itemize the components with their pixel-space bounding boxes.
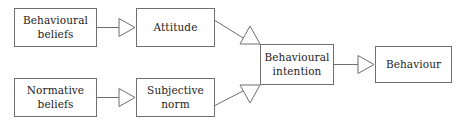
node-behavioural-intention-label: Behavioural intention: [264, 51, 329, 79]
edge-subjective-norm-to-behavioural-intention: [215, 85, 260, 106]
node-normative-beliefs-label: Normative beliefs: [27, 84, 84, 112]
arrowhead-icon: [119, 89, 135, 107]
edge-behavioural-beliefs-to-attitude: [97, 19, 135, 37]
diagram-canvas: Behavioural beliefs Attitude Normative b…: [0, 0, 466, 129]
node-subjective-norm-label: Subjective norm: [147, 84, 204, 112]
node-normative-beliefs[interactable]: Normative beliefs: [14, 78, 97, 117]
edge-normative-beliefs-to-subjective-norm: [97, 89, 135, 107]
node-behaviour-label: Behaviour: [386, 58, 441, 72]
node-behavioural-intention[interactable]: Behavioural intention: [260, 44, 334, 85]
node-subjective-norm[interactable]: Subjective norm: [136, 78, 215, 117]
node-behavioural-beliefs-label: Behavioural beliefs: [23, 14, 88, 42]
arrowhead-icon: [358, 56, 374, 74]
edge-behavioural-intention-to-behaviour: [334, 56, 374, 74]
node-behaviour[interactable]: Behaviour: [375, 46, 452, 83]
node-attitude-label: Attitude: [154, 21, 198, 35]
arrowhead-icon: [240, 26, 260, 44]
arrowhead-icon: [119, 19, 135, 37]
edge-attitude-to-behavioural-intention: [215, 21, 260, 45]
node-behavioural-beliefs[interactable]: Behavioural beliefs: [14, 8, 97, 47]
node-attitude[interactable]: Attitude: [136, 8, 215, 47]
arrowhead-icon: [240, 85, 260, 103]
